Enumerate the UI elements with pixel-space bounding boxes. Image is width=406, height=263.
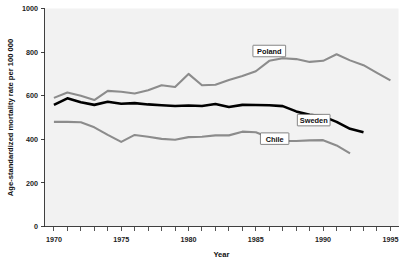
x-axis-tick-label: 1970 <box>46 235 62 244</box>
series-label-text-poland: Poland <box>257 47 282 56</box>
y-axis-tick-label: 200 <box>26 179 38 188</box>
y-axis-tick-label: 400 <box>26 135 38 144</box>
plot-background-group <box>45 9 399 227</box>
series-label-sweden: Sweden <box>297 114 330 126</box>
y-axis-tick-label: 600 <box>26 91 38 100</box>
x-axis-tick-label: 1995 <box>382 235 398 244</box>
y-axis-tick-label: 1000 <box>22 4 38 13</box>
plot-area-background <box>45 9 399 227</box>
x-axis-tick-label: 1990 <box>315 235 331 244</box>
x-axis-title: Year <box>213 250 229 259</box>
y-axis: 02004006008001000 <box>22 4 45 231</box>
line-chart: 02004006008001000 1970197519801985199019… <box>0 0 406 263</box>
x-axis-tick-label: 1975 <box>113 235 129 244</box>
y-axis-tick-label: 0 <box>34 222 38 231</box>
x-axis: 197019751980198519901995 <box>45 227 399 245</box>
y-axis-tick-label: 800 <box>26 48 38 57</box>
series-label-chile: Chile <box>260 133 288 145</box>
y-axis-title: Age-standardized mortality rate per 100 … <box>6 39 15 196</box>
chart-figure: 02004006008001000 1970197519801985199019… <box>0 0 406 263</box>
series-label-text-sweden: Sweden <box>300 116 328 125</box>
series-label-text-chile: Chile <box>266 135 284 144</box>
x-axis-tick-label: 1980 <box>181 235 197 244</box>
series-label-poland: Poland <box>253 45 286 57</box>
x-axis-tick-label: 1985 <box>248 235 264 244</box>
